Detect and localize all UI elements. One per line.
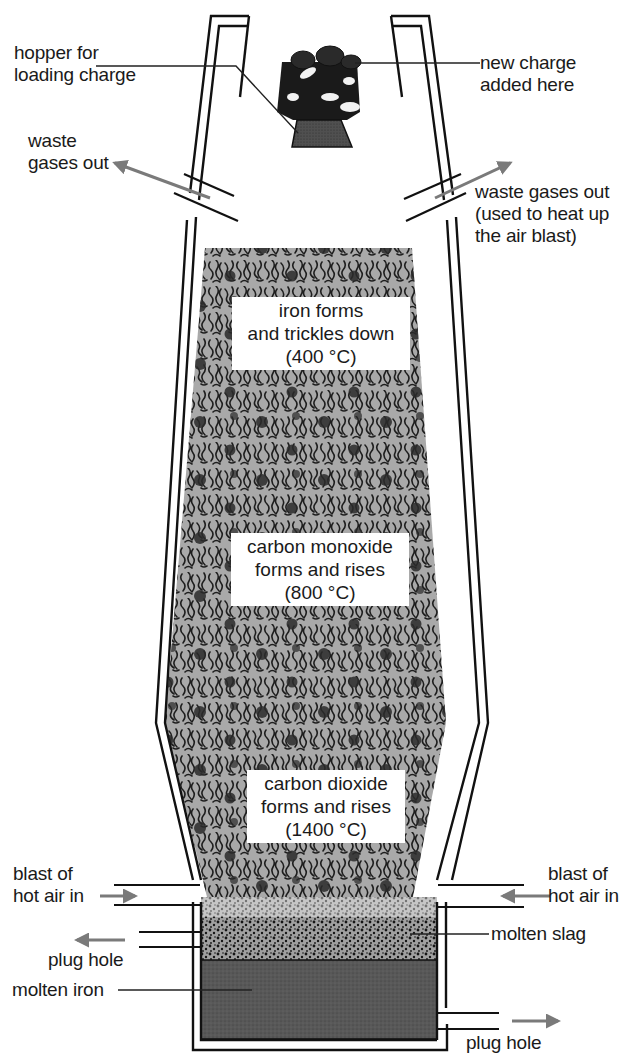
slag-plug-hole: [139, 932, 200, 947]
blast-right-label: blast of hot air in: [548, 863, 619, 907]
blast-left-label: blast of hot air in: [13, 863, 84, 907]
molten-iron-layer: [201, 960, 437, 1039]
zone-carbon-monoxide: carbon monoxide forms and rises (800 °C): [231, 533, 409, 606]
waste-gases-right-label: waste gases out (used to heat up the air…: [475, 181, 609, 247]
plug-hole-left-label: plug hole: [48, 949, 123, 971]
hopper: [277, 46, 361, 147]
plug-hole-right-label: plug hole: [466, 1032, 541, 1054]
zone-iron-forms: iron forms and trickles down (400 °C): [232, 297, 410, 370]
waste-gas-arrow-left: [115, 163, 210, 198]
molten-slag-layer: [201, 917, 437, 962]
waste-gases-left-label: waste gases out: [28, 130, 109, 174]
molten-slag-label: molten slag: [491, 923, 586, 945]
zone-carbon-dioxide: carbon dioxide forms and rises (1400 °C): [247, 770, 405, 843]
new-charge-label: new charge added here: [480, 52, 576, 96]
hopper-label: hopper for loading charge: [14, 42, 136, 86]
molten-iron-label: molten iron: [12, 979, 104, 1001]
